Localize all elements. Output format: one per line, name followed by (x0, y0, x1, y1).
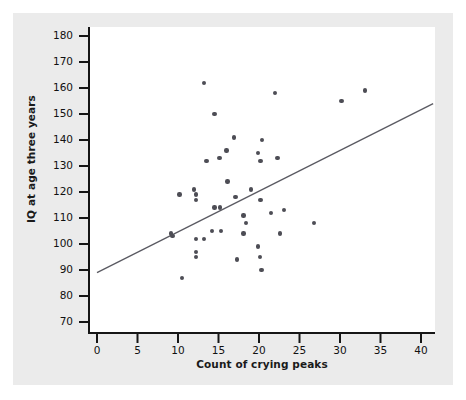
y-axis-tick-label: 130 (39, 159, 73, 171)
x-axis-ticks (97, 333, 421, 343)
y-axis-tick-label: 110 (39, 211, 73, 223)
y-axis-tick-label: 90 (39, 263, 73, 275)
data-point (258, 198, 262, 202)
y-axis-title: IQ at age three years (25, 59, 37, 259)
data-point (225, 179, 229, 183)
data-point (218, 205, 222, 209)
x-axis-tick-label: 0 (82, 344, 112, 356)
data-point (204, 159, 208, 163)
data-point (194, 192, 198, 196)
data-point (249, 187, 253, 191)
figure-panel: 708090100110120130140150160170180 051015… (13, 13, 453, 385)
x-axis-tick-label: 40 (406, 344, 436, 356)
x-axis-tick-label: 30 (325, 344, 355, 356)
data-point (259, 268, 263, 272)
y-axis-tick-label: 150 (39, 107, 73, 119)
data-point (232, 135, 236, 139)
x-axis-tick-label: 25 (285, 344, 315, 356)
data-point (202, 237, 206, 241)
y-axis-tick-label: 140 (39, 133, 73, 145)
data-point (258, 159, 262, 163)
data-point (212, 205, 216, 209)
data-point (217, 156, 221, 160)
y-axis-tick-label: 70 (39, 315, 73, 327)
data-point (363, 88, 367, 92)
data-point (224, 148, 228, 152)
axes-and-data (13, 13, 453, 385)
data-point (194, 250, 198, 254)
data-point (177, 192, 181, 196)
plot-wrapper: 708090100110120130140150160170180 051015… (13, 13, 453, 385)
y-axis-tick-label: 120 (39, 185, 73, 197)
y-axis-tick-label: 180 (39, 29, 73, 41)
data-point (241, 213, 245, 217)
x-axis-tick-label: 15 (204, 344, 234, 356)
regression-line (97, 104, 433, 273)
axis-lines (88, 27, 435, 333)
x-axis-title: Count of crying peaks (89, 358, 435, 370)
data-point (192, 187, 196, 191)
x-axis-tick-label: 5 (123, 344, 153, 356)
data-point (339, 99, 343, 103)
x-axis-tick-label: 10 (163, 344, 193, 356)
data-point (212, 112, 216, 116)
y-axis-tick-label: 80 (39, 289, 73, 301)
data-point (194, 237, 198, 241)
data-point (202, 81, 206, 85)
data-point (170, 234, 174, 238)
x-axis-tick-label: 35 (366, 344, 396, 356)
data-point (241, 231, 245, 235)
y-axis-tick-label: 160 (39, 81, 73, 93)
x-axis-tick-label: 20 (244, 344, 274, 356)
y-axis-tick-label: 100 (39, 237, 73, 249)
y-axis-ticks (79, 36, 89, 322)
data-point (278, 231, 282, 235)
y-axis-tick-label: 170 (39, 55, 73, 67)
data-point (194, 198, 198, 202)
